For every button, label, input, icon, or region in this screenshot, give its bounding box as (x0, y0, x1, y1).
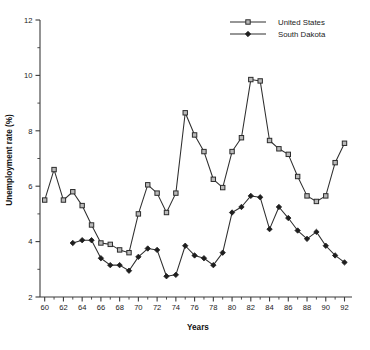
data-point-marker (324, 194, 328, 198)
data-series-layer (42, 77, 347, 279)
data-point-marker (202, 149, 206, 153)
chart-legend: United StatesSouth Dakota (230, 18, 326, 39)
x-tick-label: 74 (172, 303, 180, 312)
y-tick-label: 12 (24, 16, 32, 25)
data-point-marker (342, 141, 346, 145)
data-point-marker (155, 191, 159, 195)
data-point-marker (314, 199, 318, 203)
data-point-marker (52, 167, 56, 171)
x-tick-label: 92 (340, 303, 348, 312)
unemployment-line-chart: 24681012 6062646668707274767880828486889… (0, 0, 370, 350)
x-tick-label: 90 (322, 303, 330, 312)
x-tick-label: 60 (40, 303, 48, 312)
data-point-marker (146, 183, 150, 187)
data-point-marker (71, 190, 75, 194)
x-tick-label: 64 (78, 303, 86, 312)
y-axis-tick-labels: 24681012 (24, 16, 32, 302)
x-tick-label: 62 (59, 303, 67, 312)
legend-swatch-marker (245, 31, 250, 36)
data-point-marker (305, 194, 309, 198)
data-point-marker (80, 203, 84, 207)
data-point-marker (164, 210, 168, 214)
data-point-marker (127, 250, 131, 254)
x-tick-label: 82 (247, 303, 255, 312)
legend-swatch-marker (246, 20, 250, 24)
data-point-marker (154, 247, 159, 252)
data-point-marker (89, 238, 94, 243)
data-point-marker (333, 160, 337, 164)
data-point-marker (164, 274, 169, 279)
x-axis-tick-labels: 6062646668707274767880828486889092 (40, 303, 348, 312)
data-point-marker (267, 138, 271, 142)
data-point-marker (192, 133, 196, 137)
x-tick-label: 86 (284, 303, 292, 312)
chart-container: 24681012 6062646668707274767880828486889… (0, 0, 370, 350)
data-point-marker (286, 152, 290, 156)
y-tick-label: 4 (28, 237, 32, 246)
data-point-marker (258, 79, 262, 83)
x-axis-ticks (45, 297, 345, 302)
data-point-marker (257, 195, 262, 200)
x-tick-label: 78 (209, 303, 217, 312)
legend-label: United States (278, 18, 325, 27)
x-tick-label: 84 (265, 303, 273, 312)
x-tick-label: 72 (153, 303, 161, 312)
data-point-marker (117, 248, 121, 252)
data-point-marker (230, 149, 234, 153)
data-point-marker (277, 147, 281, 151)
data-point-marker (89, 223, 93, 227)
data-point-marker (99, 241, 103, 245)
data-point-marker (79, 238, 84, 243)
y-tick-label: 10 (24, 71, 32, 80)
data-point-marker (174, 191, 178, 195)
y-axis-title: Unemployment rate (%) (5, 114, 14, 206)
data-point-marker (221, 185, 225, 189)
series-united-states (42, 77, 346, 255)
y-tick-label: 2 (28, 293, 32, 302)
data-point-marker (183, 111, 187, 115)
data-point-marker (211, 177, 215, 181)
data-point-marker (61, 198, 65, 202)
y-axis-ticks (36, 20, 41, 297)
data-point-marker (249, 77, 253, 81)
data-point-marker (136, 212, 140, 216)
data-point-marker (229, 210, 234, 215)
legend-label: South Dakota (278, 30, 326, 39)
data-point-marker (173, 272, 178, 277)
data-point-marker (117, 262, 122, 267)
legend-item-south-dakota[interactable]: South Dakota (230, 30, 326, 39)
data-point-marker (239, 136, 243, 140)
series-line (73, 196, 345, 276)
x-axis-title: Years (187, 323, 209, 332)
legend-item-united-states[interactable]: United States (230, 18, 325, 27)
data-point-marker (42, 198, 46, 202)
data-point-marker (295, 174, 299, 178)
x-tick-label: 66 (97, 303, 105, 312)
series-south-dakota (70, 193, 347, 279)
data-point-marker (108, 242, 112, 246)
data-point-marker (267, 226, 272, 231)
x-tick-label: 68 (115, 303, 123, 312)
y-tick-label: 6 (28, 182, 32, 191)
x-tick-label: 70 (134, 303, 142, 312)
data-point-marker (70, 240, 75, 245)
x-tick-label: 76 (190, 303, 198, 312)
y-tick-label: 8 (28, 127, 32, 136)
x-tick-label: 80 (228, 303, 236, 312)
x-tick-label: 88 (303, 303, 311, 312)
